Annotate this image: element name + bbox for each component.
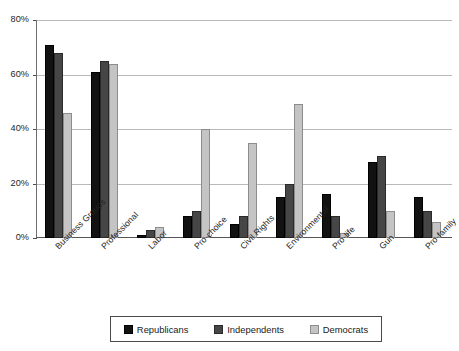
y-tick-label: 80%	[11, 14, 29, 24]
legend-swatch-icon	[214, 325, 223, 334]
bar-rep	[183, 216, 192, 238]
legend-item-dem[interactable]: Democrats	[310, 324, 368, 335]
bar-group	[276, 20, 303, 238]
bar-dem	[109, 64, 118, 238]
bar-ind	[54, 53, 63, 238]
bar-group	[45, 20, 72, 238]
bar-dem	[63, 113, 72, 238]
bar-ind	[100, 61, 109, 238]
legend-label: Republicans	[137, 324, 189, 335]
y-tick-label: 40%	[11, 123, 29, 133]
bar-ind	[192, 211, 201, 238]
bar-rep	[368, 162, 377, 238]
x-axis-category-labels: Business GroupsProfessionalLaborPro-choi…	[0, 238, 459, 310]
bar-ind	[377, 156, 386, 238]
legend-label: Democrats	[323, 324, 368, 335]
bar-group	[137, 20, 164, 238]
bar-group	[368, 20, 395, 238]
bar-chart: 0%20%40%60%80% Business GroupsProfession…	[0, 0, 459, 351]
bar-group	[183, 20, 210, 238]
y-tick-label: 60%	[11, 69, 29, 79]
y-tick-label: 20%	[11, 178, 29, 188]
bar-group	[414, 20, 441, 238]
legend-item-rep[interactable]: Republicans	[124, 324, 189, 335]
bar-dem	[201, 129, 210, 238]
bar-group	[322, 20, 349, 238]
bar-dem	[248, 143, 257, 238]
bar-rep	[230, 224, 239, 238]
bar-group	[230, 20, 257, 238]
bar-dem	[294, 104, 303, 238]
chart-legend: RepublicansIndependentsDemocrats	[110, 316, 382, 342]
legend-item-ind[interactable]: Independents	[214, 324, 284, 335]
bar-ind	[285, 184, 294, 239]
legend-swatch-icon	[124, 325, 133, 334]
bar-ind	[423, 211, 432, 238]
bar-rep	[414, 197, 423, 238]
legend-swatch-icon	[310, 325, 319, 334]
bar-rep	[276, 197, 285, 238]
legend-label: Independents	[227, 324, 284, 335]
bar-rep	[45, 45, 54, 238]
